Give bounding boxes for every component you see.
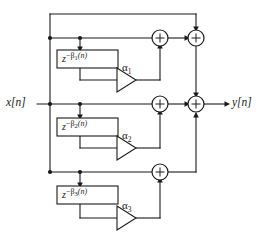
delay-block-1-label: z−β1(n)	[62, 54, 87, 64]
junction-dot-input	[48, 102, 52, 106]
input-signal-label: x[n]	[6, 97, 26, 109]
gain-3-symbol: α	[122, 199, 128, 211]
delay-block-2-label: z−β2(n)	[62, 122, 87, 132]
gain-1-symbol: α	[122, 61, 128, 73]
delay-block-3-label: z−β3(n)	[62, 190, 87, 200]
gain-3-label: α3	[122, 200, 132, 211]
gain-2-label: α2	[122, 130, 132, 141]
delay-1-beta: β	[70, 51, 74, 60]
delay-3-arg: (n)	[78, 187, 87, 196]
gain-1-subscript: 1	[128, 67, 132, 76]
arrowhead-adderOut-bottom-in	[193, 112, 199, 118]
gain-1-label: α1	[122, 62, 132, 73]
junction-dot-branch1-tap	[78, 36, 82, 40]
junction-dot-branch2-tap	[78, 102, 82, 106]
signal-flow-diagram: x[n] y[n] z−β1(n) z−β2(n) z−β3(n) α1 α2 …	[0, 0, 263, 245]
gain-2-subscript: 2	[128, 135, 132, 144]
delay-2-arg: (n)	[78, 119, 87, 128]
arrowhead-output	[225, 101, 231, 107]
gain-2-symbol: α	[122, 129, 128, 141]
junction-dot-branch3-tap	[78, 170, 82, 174]
junction-dot-branch3	[48, 170, 52, 174]
delay-3-beta: β	[70, 187, 74, 196]
delay-2-beta: β	[70, 119, 74, 128]
gain-3-subscript: 3	[128, 205, 132, 214]
delay-1-arg: (n)	[78, 51, 87, 60]
output-signal-label: y[n]	[232, 97, 252, 109]
junction-dot-branch1	[48, 36, 52, 40]
